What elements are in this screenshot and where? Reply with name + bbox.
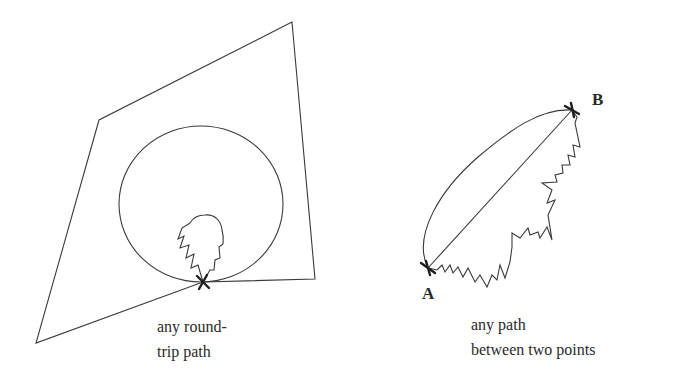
round-trip-caption-line1: any round-: [157, 314, 227, 339]
jagged-loop-left-side: [178, 223, 203, 282]
quadrilateral-round-trip-path: [36, 22, 315, 343]
circle-round-trip-path: [119, 126, 283, 282]
round-trip-figure: [36, 22, 315, 343]
two-point-caption: any path between two points: [471, 312, 595, 362]
diagram-canvas: any round- trip path A B any path betwee…: [0, 0, 691, 385]
two-point-figure: [421, 103, 580, 287]
round-trip-caption-line2: trip path: [157, 339, 227, 364]
point-a-label: A: [422, 285, 434, 302]
point-b-label: B: [592, 91, 603, 108]
jagged-loop-top-arc: [190, 215, 223, 244]
round-trip-caption: any round- trip path: [157, 314, 227, 364]
two-point-caption-line1: any path: [471, 312, 595, 337]
two-point-caption-line2: between two points: [471, 337, 595, 362]
